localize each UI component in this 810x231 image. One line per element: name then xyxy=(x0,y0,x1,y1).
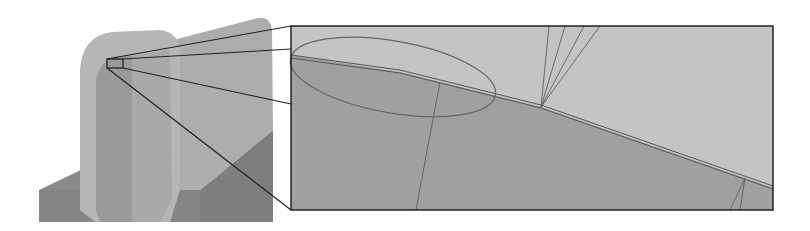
zoom-panel xyxy=(284,23,773,210)
cad-model xyxy=(39,18,273,222)
figure-canvas xyxy=(0,0,810,231)
model-fin-highlight xyxy=(132,50,172,222)
model-fin-shade xyxy=(96,56,132,222)
